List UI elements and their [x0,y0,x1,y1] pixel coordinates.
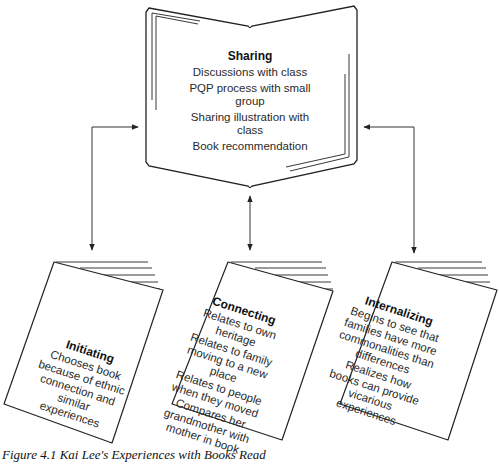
sharing-panel: Sharing Discussions with class PQP proce… [150,50,350,156]
sharing-item: Sharing illustration with class [150,111,350,137]
sharing-title: Sharing [150,50,350,63]
sharing-item: Discussions with class [150,66,350,79]
sharing-item: PQP process with small group [150,82,350,108]
sharing-item: Book recommendation [150,140,350,153]
figure-caption: Figure 4.1 Kai Lee's Experiences with Bo… [2,447,266,463]
